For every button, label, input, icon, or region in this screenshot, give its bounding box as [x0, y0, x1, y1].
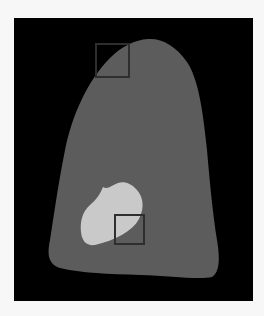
diagram-figure — [0, 0, 264, 316]
